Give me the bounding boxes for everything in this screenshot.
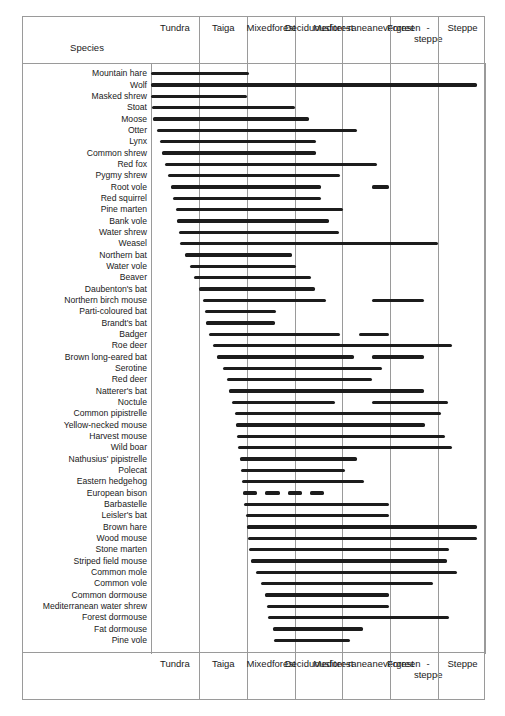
species-label: Water shrew [99, 227, 147, 238]
species-label: Wild boar [111, 442, 147, 453]
chart-plot-area: Mountain hareWolfMasked shrewStoatMooseO… [23, 64, 486, 654]
biome-column-header-mediterranean-evergreen: Mediter-raneanevergreen [342, 653, 390, 699]
species-label: Brown hare [103, 522, 147, 533]
species-label: Common shrew [87, 148, 147, 159]
biome-column-header-tundra: Tundra [151, 653, 199, 699]
header-line: ranean [348, 658, 378, 669]
species-range-bar [372, 355, 424, 358]
species-label: Bank vole [109, 216, 147, 227]
species-label: Badger [119, 329, 147, 340]
species-range-bar [217, 355, 354, 358]
species-label: Yellow-necked mouse [64, 420, 147, 431]
species-label-column: Mountain hareWolfMasked shrewStoatMooseO… [23, 64, 151, 654]
species-label: Common dormouse [72, 590, 147, 601]
column-header-row: Species TundraTaigaMixedforestDeciduousf… [23, 17, 486, 64]
species-label: Weasel [118, 238, 147, 249]
species-range-bar [151, 72, 249, 75]
species-label: Red fox [117, 159, 147, 170]
species-range-bar [372, 185, 389, 188]
species-label: Mediterranean water shrew [43, 601, 147, 612]
species-label: Common pipistrelle [73, 408, 147, 419]
species-range-bar [223, 367, 382, 370]
species-label: Stoat [127, 102, 147, 113]
biome-column-header-forest-steppe: Forest-steppe [390, 17, 438, 63]
species-label: Water vole [106, 261, 147, 272]
header-line: Taiga [212, 22, 235, 33]
species-label: Brandt's bat [101, 318, 147, 329]
species-label: Eastern hedgehog [77, 476, 147, 487]
species-label: Leisler's bat [101, 510, 147, 521]
species-range-bar [243, 491, 324, 494]
species-label: Polecat [118, 465, 147, 476]
species-label: Harvest mouse [89, 431, 147, 442]
species-label: European bison [87, 488, 147, 499]
header-line: Mixed [247, 658, 272, 669]
species-range-bar [152, 106, 295, 109]
header-line: ranean [348, 22, 378, 33]
species-range-bar [160, 140, 316, 143]
species-label: Root vole [111, 182, 147, 193]
species-range-bar [268, 616, 448, 619]
species-range-bar [177, 219, 329, 222]
species-range-bar [251, 559, 447, 562]
species-label: Wood mouse [97, 533, 147, 544]
species-label: Roe deer [112, 340, 147, 351]
species-column-header-label: Species [70, 42, 104, 53]
species-label: Pine marten [101, 204, 147, 215]
species-range-bar [153, 117, 309, 120]
species-label: Forest dormouse [82, 612, 147, 623]
biome-column-header-steppe: Steppe [438, 653, 486, 699]
species-range-bar [256, 571, 457, 574]
range-bar-dash [265, 491, 279, 494]
header-line: Mediter- [313, 22, 348, 33]
range-bars-area [151, 64, 486, 654]
species-range-bar [173, 197, 321, 200]
range-bar-dash [310, 491, 324, 494]
species-range-bar [240, 457, 357, 460]
species-range-bar [162, 151, 317, 154]
species-range-bar [190, 265, 295, 268]
species-range-bar [236, 423, 425, 426]
column-footer-row: TundraTaigaMixedforestDeciduousforestMed… [23, 652, 486, 699]
species-range-bar [235, 412, 441, 415]
species-biome-range-chart: Species TundraTaigaMixedforestDeciduousf… [0, 0, 505, 716]
species-label: Brown long-eared bat [65, 352, 147, 363]
range-bar-dash [243, 491, 257, 494]
species-range-bar [237, 435, 445, 438]
species-label: Daubenton's bat [85, 284, 147, 295]
species-range-bar [213, 344, 452, 347]
species-label: Common vole [94, 578, 147, 589]
species-range-bar [267, 605, 390, 608]
species-range-bar [171, 185, 321, 188]
biome-column-header-tundra: Tundra [151, 17, 199, 63]
species-range-bar [209, 333, 340, 336]
biome-column-header-steppe: Steppe [438, 17, 486, 63]
species-range-bar [203, 299, 326, 302]
species-range-bar [274, 639, 349, 642]
species-range-bar [227, 378, 372, 381]
species-range-bar [372, 401, 448, 404]
header-line: Forest [387, 658, 414, 669]
species-range-bar [205, 310, 277, 313]
biome-column-header-forest-steppe: Forest-steppe [390, 653, 438, 699]
species-range-bar [248, 537, 478, 540]
species-range-bar [151, 95, 247, 98]
species-label: Striped field mouse [73, 556, 147, 567]
species-range-bar [232, 401, 335, 404]
species-label: Natterer's bat [96, 386, 147, 397]
header-line: Tundra [160, 658, 190, 669]
species-range-bar [246, 514, 390, 517]
header-line: Steppe [448, 658, 478, 669]
species-range-bar [244, 503, 389, 506]
biome-column-header-taiga: Taiga [199, 17, 247, 63]
species-label: Northern birch mouse [64, 295, 147, 306]
species-label: Noctule [118, 397, 147, 408]
species-range-bar [185, 253, 292, 256]
header-line: Tundra [160, 22, 190, 33]
species-label: Pygmy shrew [95, 170, 147, 181]
header-line: Steppe [448, 22, 478, 33]
species-range-bar [206, 321, 275, 324]
species-range-bar [199, 287, 315, 290]
species-label: Barbastelle [104, 499, 147, 510]
header-line: Mediter- [313, 658, 348, 669]
